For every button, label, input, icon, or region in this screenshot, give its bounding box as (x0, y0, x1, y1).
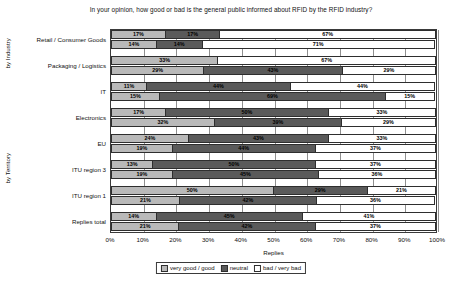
y-axis-label: ITU region 3 (72, 165, 106, 172)
bar-row[interactable]: 32%39%29% (111, 118, 436, 127)
row-gap (111, 179, 436, 186)
bar-segment: 24% (111, 134, 189, 143)
bar-value-label: 21% (140, 224, 151, 229)
x-axis-label: Replies (110, 249, 437, 256)
bar-value-label: 50% (187, 188, 198, 193)
bar-segment: 19% (111, 144, 173, 153)
x-axis-tick: 40% (235, 236, 247, 243)
bar-segment: 42% (180, 196, 317, 205)
bar-group: 33%67%29%43%29% (111, 56, 436, 75)
bar-segment: 71% (203, 40, 435, 49)
legend-label: very good / good (170, 265, 215, 271)
bar-group: 11%44%44%15%69%15% (111, 82, 436, 101)
bar-segment: 19% (111, 170, 173, 179)
bar-value-label: 43% (268, 68, 279, 73)
bar-segment: 44% (147, 82, 291, 91)
bar-segment: 15% (111, 92, 160, 101)
bar-row[interactable]: 19%44%37% (111, 144, 436, 153)
legend-item[interactable]: neutral (221, 265, 248, 272)
bar-row[interactable]: 21%42%37% (111, 222, 436, 231)
bar-value-label: 32% (158, 120, 169, 125)
bar-segment: 37% (316, 144, 436, 153)
bar-value-label: 29% (152, 68, 163, 73)
bar-segment: 45% (173, 170, 319, 179)
bar-group: 24%43%33%19%44%37% (111, 134, 436, 153)
bar-segment: 32% (111, 118, 215, 127)
x-axis-ticks: 0%10%20%30%40%50%60%70%80%90%100% (110, 236, 437, 248)
bar-row[interactable]: 15%69%15% (111, 92, 436, 101)
bar-value-label: 17% (133, 32, 144, 37)
bar-value-label: 33% (376, 136, 387, 141)
chart-title: In your opinion, how good or bad is the … (0, 6, 462, 13)
bar-value-label: 21% (140, 198, 151, 203)
bar-row[interactable]: 11%44%44% (111, 82, 436, 91)
bar-segment: 21% (111, 222, 179, 231)
bar-value-label: 36% (372, 172, 383, 177)
gridline (438, 30, 439, 232)
legend-swatch (221, 265, 228, 272)
bar-value-label: 33% (376, 110, 387, 115)
y-axis-label: Electronics (76, 113, 106, 120)
row-gap (111, 49, 436, 56)
bar-segment: 17% (111, 108, 166, 117)
bar-value-label: 39% (272, 120, 283, 125)
y-axis-label: IT (101, 87, 107, 94)
bar-segment: 33% (329, 134, 436, 143)
bar-value-label: 14% (128, 42, 139, 47)
y-axis-label: ITU region 1 (72, 191, 106, 198)
bar-row[interactable]: 19%45%36% (111, 170, 436, 179)
bar-segment: 69% (160, 92, 386, 101)
bar-segment: 14% (157, 40, 203, 49)
bar-segment: 15% (386, 92, 435, 101)
chart-legend: very good / goodneutralbad / very bad (156, 262, 306, 274)
bar-value-label: 45% (240, 172, 251, 177)
bar-segment: 50% (166, 108, 329, 117)
bar-row[interactable]: 33%67% (111, 56, 436, 65)
bar-row[interactable]: 24%43%33% (111, 134, 436, 143)
bar-row[interactable]: 13%50%37% (111, 160, 436, 169)
bar-group: 17%50%33%32%39%29% (111, 108, 436, 127)
bar-row[interactable]: 29%43%29% (111, 66, 436, 75)
bar-row[interactable]: 17%50%33% (111, 108, 436, 117)
bar-rows: 17%17%67%14%14%71%33%67%29%43%29%11%44%4… (111, 30, 436, 232)
bar-value-label: 24% (145, 136, 156, 141)
legend-label: bad / very bad (263, 265, 301, 271)
x-axis-tick: 90% (398, 236, 410, 243)
bar-segment: 41% (303, 212, 436, 221)
bar-segment: 29% (274, 186, 368, 195)
bar-value-label: 14% (128, 214, 139, 219)
bar-segment: 21% (111, 196, 180, 205)
bar-row[interactable]: 17%17%67% (111, 30, 436, 39)
bar-segment: 67% (218, 56, 436, 65)
x-axis-tick: 30% (202, 236, 214, 243)
legend-item[interactable]: very good / good (161, 265, 215, 272)
bar-value-label: 15% (404, 94, 415, 99)
bar-row[interactable]: 21%42%36% (111, 196, 436, 205)
legend-label: neutral (230, 265, 248, 271)
legend-item[interactable]: bad / very bad (254, 265, 301, 272)
bar-segment: 33% (329, 108, 436, 117)
row-gap (111, 205, 436, 212)
bar-value-label: 33% (159, 58, 170, 63)
bar-segment: 21% (368, 186, 436, 195)
bar-segment: 11% (111, 82, 147, 91)
bar-value-label: 17% (133, 110, 144, 115)
bar-segment: 14% (111, 212, 157, 221)
plot-area: 17%17%67%14%14%71%33%67%29%43%29%11%44%4… (110, 29, 437, 233)
bar-group: 14%45%41%21%42%37% (111, 212, 436, 231)
row-gap (111, 75, 436, 82)
x-axis-tick: 50% (267, 236, 279, 243)
bar-row[interactable]: 50%29%21% (111, 186, 436, 195)
bar-segment: 43% (189, 134, 329, 143)
bar-row[interactable]: 14%14%71% (111, 40, 436, 49)
y-axis-category-labels: Retail / Consumer GoodsPackaging / Logis… (0, 29, 108, 233)
bar-value-label: 41% (363, 214, 374, 219)
bar-segment: 29% (111, 66, 204, 75)
bar-segment: 37% (316, 222, 436, 231)
bar-segment: 50% (153, 160, 316, 169)
x-axis-tick: 100% (429, 236, 445, 243)
bar-row[interactable]: 14%45%41% (111, 212, 436, 221)
x-axis-tick: 10% (136, 236, 148, 243)
bar-segment: 50% (111, 186, 274, 195)
bar-value-label: 19% (136, 146, 147, 151)
